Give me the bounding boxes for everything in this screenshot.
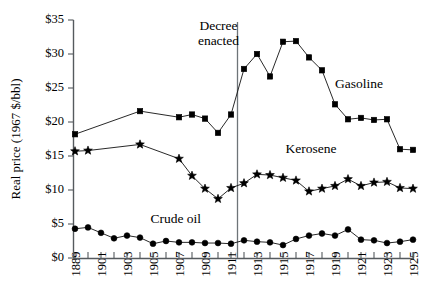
y-tick-label: $0 <box>52 250 65 264</box>
data-point-marker <box>176 115 181 120</box>
data-point-marker <box>397 239 403 245</box>
data-point-marker <box>410 147 415 152</box>
data-point-marker <box>202 116 207 121</box>
data-point-marker <box>384 240 390 246</box>
x-tick-label: 1921 <box>355 252 369 277</box>
x-tick-label: 1915 <box>277 252 291 277</box>
data-point-marker <box>241 66 246 71</box>
series-path <box>75 41 413 150</box>
x-tick-label: 1923 <box>381 252 395 277</box>
data-point-marker <box>163 238 169 244</box>
data-point-marker <box>305 187 314 195</box>
data-point-marker <box>215 130 220 135</box>
data-point-marker <box>137 235 143 241</box>
data-point-marker <box>358 237 364 243</box>
data-point-marker <box>293 236 299 242</box>
y-axis-title: Real price (1967 $/bbl) <box>8 79 23 200</box>
y-tick-label: $30 <box>45 46 64 60</box>
data-point-marker <box>293 38 298 43</box>
data-point-marker <box>84 146 93 154</box>
data-point-marker <box>410 237 416 243</box>
y-axis-ticks <box>68 20 74 258</box>
data-point-marker <box>357 181 366 189</box>
data-point-marker <box>228 241 234 247</box>
data-point-marker <box>279 173 288 181</box>
data-point-marker <box>176 239 182 245</box>
data-point-marker <box>266 170 275 178</box>
data-point-marker <box>136 140 145 148</box>
data-point-marker <box>228 112 233 117</box>
price-history-line-chart: $0$5$10$15$20$25$30$35 18891901190319051… <box>0 0 436 308</box>
data-point-marker <box>85 225 91 231</box>
data-point-marker <box>215 240 221 246</box>
data-point-marker <box>306 233 312 239</box>
data-point-marker <box>202 240 208 246</box>
series-label-crude-oil: Crude oil <box>150 211 201 226</box>
data-point-marker <box>345 227 351 233</box>
series-label-gasoline: Gasoline <box>335 76 383 91</box>
data-point-marker <box>331 181 340 189</box>
data-point-marker <box>318 184 327 192</box>
decree-annotation-line2: enacted <box>198 33 239 48</box>
data-point-marker <box>358 115 363 120</box>
data-series-group <box>71 38 418 248</box>
data-point-marker <box>345 117 350 122</box>
data-point-marker <box>189 239 195 245</box>
series-path <box>75 144 413 198</box>
data-point-marker <box>332 233 338 239</box>
data-point-marker <box>71 147 80 155</box>
data-point-marker <box>280 39 285 44</box>
x-tick-label: 1907 <box>173 252 187 277</box>
x-tick-label: 1889 <box>69 252 83 277</box>
data-point-marker <box>383 177 392 185</box>
data-point-marker <box>409 184 418 192</box>
x-tick-label: 1919 <box>329 252 343 277</box>
series-gasoline <box>72 38 415 152</box>
data-point-marker <box>267 74 272 79</box>
y-tick-label: $5 <box>52 216 65 230</box>
data-point-marker <box>189 112 194 117</box>
data-point-marker <box>319 68 324 73</box>
chart-container: $0$5$10$15$20$25$30$35 18891901190319051… <box>0 0 436 308</box>
data-point-marker <box>137 108 142 113</box>
data-point-marker <box>72 226 78 232</box>
data-point-marker <box>370 178 379 186</box>
x-tick-label: 1913 <box>251 252 265 277</box>
data-point-marker <box>384 117 389 122</box>
y-tick-label: $15 <box>45 148 64 162</box>
data-point-marker <box>111 235 117 241</box>
data-point-marker <box>306 55 311 60</box>
data-point-marker <box>397 147 402 152</box>
data-point-marker <box>254 51 259 56</box>
y-tick-label: $35 <box>45 12 64 26</box>
data-point-marker <box>371 237 377 243</box>
data-point-marker <box>98 230 104 236</box>
data-point-marker <box>396 183 405 191</box>
data-point-marker <box>280 242 286 248</box>
x-tick-label: 1911 <box>225 252 239 277</box>
y-axis-tick-labels: $0$5$10$15$20$25$30$35 <box>45 12 64 264</box>
data-point-marker <box>72 132 77 137</box>
data-point-marker <box>254 239 260 245</box>
series-label-kerosene: Kerosene <box>286 141 337 156</box>
data-point-marker <box>332 102 337 107</box>
x-tick-label: 1917 <box>303 252 317 277</box>
y-tick-label: $25 <box>45 80 64 94</box>
x-tick-label: 1901 <box>95 252 109 277</box>
decree-annotation-line1: Decree <box>199 18 237 33</box>
data-point-marker <box>150 241 156 247</box>
data-point-marker <box>267 239 273 245</box>
y-tick-label: $10 <box>45 182 64 196</box>
data-point-marker <box>214 194 223 202</box>
x-tick-label: 1909 <box>199 252 213 277</box>
data-point-marker <box>319 231 325 237</box>
data-point-marker <box>241 237 247 243</box>
series-kerosene <box>71 140 418 203</box>
data-point-marker <box>240 179 249 187</box>
data-point-marker <box>175 154 184 162</box>
data-point-marker <box>371 117 376 122</box>
data-point-marker <box>124 233 130 239</box>
x-tick-label: 1905 <box>147 252 161 277</box>
data-point-marker <box>344 175 353 183</box>
x-tick-label: 1903 <box>121 252 135 277</box>
